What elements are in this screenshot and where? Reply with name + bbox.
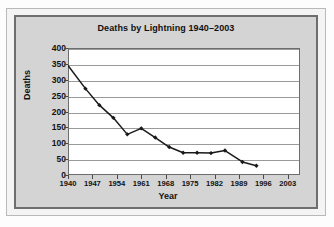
data-point-marker (195, 151, 199, 155)
x-axis-tick-label: 1954 (108, 179, 125, 188)
y-axis-tick-label: 150 (30, 122, 66, 132)
series-polyline (68, 65, 256, 165)
y-axis-labels: 050100150200250300350400 (30, 48, 66, 175)
y-axis-tick-label: 300 (30, 75, 66, 85)
x-axis-tick-label: 1989 (230, 179, 247, 188)
y-axis-tick-label: 50 (30, 154, 66, 164)
y-axis-tick-label: 250 (30, 91, 66, 101)
y-axis-tick-label: 400 (30, 43, 66, 53)
x-axis-tick-label: 1996 (255, 179, 272, 188)
x-axis-title: Year (16, 191, 320, 201)
x-axis-tick-label: 1968 (157, 179, 174, 188)
data-series-line (68, 48, 300, 175)
y-axis-tick-label: 200 (30, 107, 66, 117)
x-axis-tick-label: 1940 (60, 179, 77, 188)
y-axis-tick-label: 350 (30, 59, 66, 69)
data-point-marker (254, 164, 258, 168)
chart-panel: Deaths by Lightning 1940–2003 Deaths 050… (14, 15, 318, 209)
y-axis-tick-label: 100 (30, 138, 66, 148)
data-point-marker (209, 151, 213, 155)
x-axis-tick-label: 1975 (182, 179, 199, 188)
screenshot-root: Deaths by Lightning 1940–2003 Deaths 050… (0, 0, 334, 227)
data-point-marker (181, 151, 185, 155)
x-axis-tick-label: 1961 (133, 179, 150, 188)
x-axis-tick-label: 1947 (84, 179, 101, 188)
x-axis-tick-label: 1982 (206, 179, 223, 188)
chart-title: Deaths by Lightning 1940–2003 (16, 23, 316, 33)
x-axis-labels: 1940194719541961196819751982198919962003 (16, 177, 320, 191)
x-axis-tick-label: 2003 (279, 179, 296, 188)
